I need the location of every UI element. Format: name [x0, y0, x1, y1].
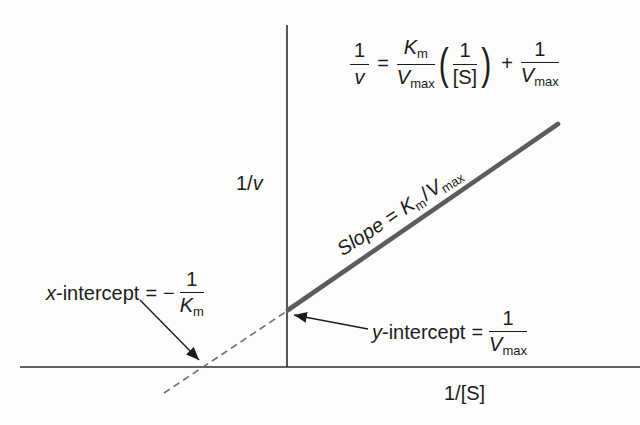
x-intercept-denominator: Km	[180, 293, 204, 320]
vmax-subscript: max	[534, 74, 559, 89]
vmax-symbol: V	[397, 66, 410, 88]
rate-equation: 1 v = Km Vmax ( 1 [S] ) + 1 Vmax	[350, 36, 559, 91]
equation-slope-fraction: Km Vmax	[397, 36, 435, 91]
km-symbol: K	[404, 36, 417, 58]
equals-sign: =	[145, 282, 157, 305]
y-axis-label-variable: v	[253, 172, 263, 194]
plus-sign: +	[501, 52, 513, 75]
equation-substrate-denominator: [S]	[453, 65, 477, 88]
equation-slope-numerator: Km	[397, 36, 435, 65]
x-intercept-fraction: 1 Km	[180, 268, 204, 320]
equation-substrate-fraction: 1 [S]	[453, 39, 477, 88]
vmax-subscript: max	[410, 76, 435, 91]
y-axis-label: 1/v	[236, 172, 263, 195]
x-intercept-annotation: x-intercept=− 1 Km	[46, 268, 204, 320]
y-intercept-denominator: Vmax	[489, 332, 527, 359]
equation-lhs-numerator: 1	[350, 39, 369, 64]
y-variable: y	[372, 321, 382, 344]
x-axis-label: 1/[S]	[444, 382, 485, 405]
y-intercept-fraction: 1 Vmax	[489, 307, 527, 359]
km-symbol: K	[180, 294, 193, 316]
equation-intercept-denominator: Vmax	[521, 63, 559, 90]
vmax-subscript: max	[502, 343, 527, 358]
equals-sign: =	[471, 321, 483, 344]
extrapolation-dashed-line	[164, 311, 287, 393]
vmax-symbol: V	[489, 333, 502, 355]
lineweaver-burk-diagram: 1 v = Km Vmax ( 1 [S] ) + 1 Vmax 1/v 1/[…	[0, 0, 640, 425]
x-variable: x	[46, 282, 56, 305]
y-axis-label-prefix: 1/	[236, 172, 253, 194]
vmax-symbol: V	[521, 64, 534, 86]
equation-lhs-fraction: 1 v	[350, 39, 369, 88]
equation-substrate-numerator: 1	[453, 39, 477, 64]
intercept-word: -intercept	[56, 282, 139, 305]
equation-lhs-denominator: v	[350, 65, 369, 88]
equation-intercept-numerator: 1	[521, 38, 559, 63]
intercept-word: -intercept	[382, 321, 465, 344]
data-line	[288, 124, 558, 310]
y-intercept-numerator: 1	[489, 307, 527, 332]
equation-intercept-fraction: 1 Vmax	[521, 38, 559, 90]
y-intercept-arrow	[294, 315, 368, 329]
equals-sign: =	[377, 52, 389, 75]
km-subscript: m	[193, 304, 204, 319]
x-intercept-numerator: 1	[180, 268, 204, 293]
close-paren: )	[481, 38, 491, 89]
y-intercept-annotation: y-intercept= 1 Vmax	[372, 307, 527, 359]
open-paren: (	[439, 38, 449, 89]
km-subscript: m	[417, 46, 428, 61]
minus-sign: −	[163, 282, 175, 305]
equation-slope-denominator: Vmax	[397, 65, 435, 92]
